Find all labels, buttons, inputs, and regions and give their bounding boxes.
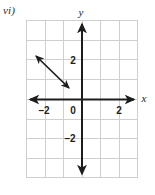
x-axis-label: x bbox=[141, 92, 147, 104]
y-tick-label-positive-two: 2 bbox=[70, 55, 76, 66]
x-tick-label-negative-two: –2 bbox=[38, 105, 50, 116]
origin-label: 0 bbox=[70, 105, 76, 116]
coordinate-plane-figure: vi) bbox=[0, 0, 155, 195]
coordinate-plane-svg: x y –2 2 0 2 –2 bbox=[0, 0, 155, 195]
x-tick-label-positive-two: 2 bbox=[116, 105, 122, 116]
y-tick-label-negative-two: –2 bbox=[64, 133, 76, 144]
y-axis-label: y bbox=[78, 6, 84, 18]
